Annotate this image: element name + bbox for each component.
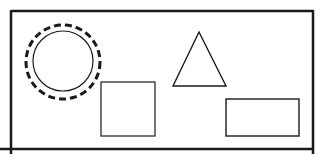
square <box>101 82 155 136</box>
shapes-diagram <box>0 0 322 154</box>
rectangle <box>226 99 299 136</box>
diagram-svg <box>0 0 322 154</box>
dashed-circle <box>26 25 100 99</box>
frame <box>0 10 314 154</box>
solid-circle <box>33 31 93 91</box>
triangle <box>173 32 226 86</box>
